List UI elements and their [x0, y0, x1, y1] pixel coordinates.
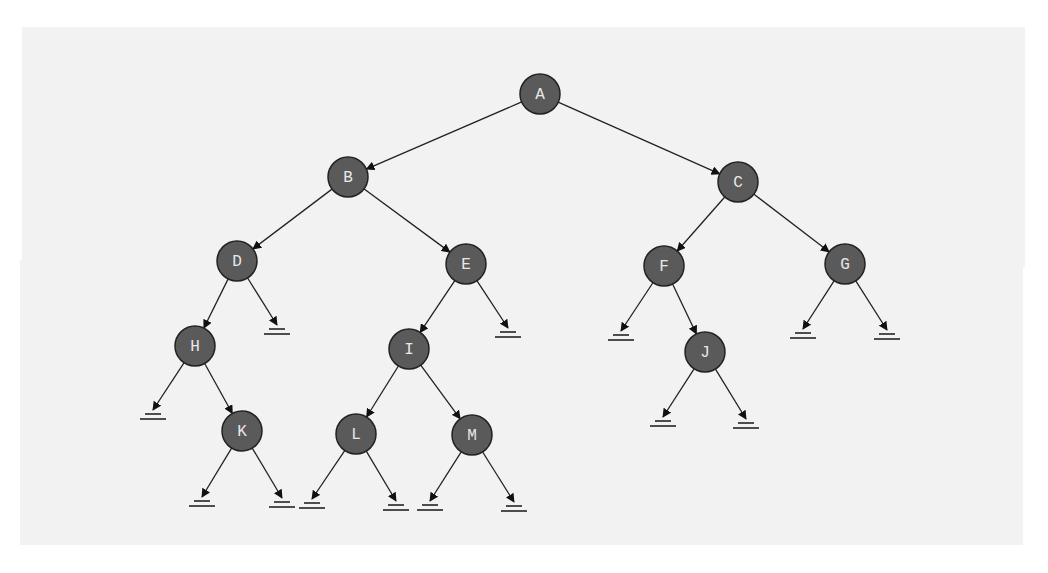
edge-A-B — [366, 101, 523, 169]
null-ground-icon — [501, 506, 527, 511]
null-ground-icon — [189, 501, 215, 506]
node-label: G — [840, 256, 850, 274]
edge-B-E — [362, 188, 449, 252]
null-edge-D — [247, 276, 277, 325]
null-ground-icon — [269, 502, 295, 507]
node-label: F — [659, 258, 669, 276]
edge-H-K — [204, 362, 233, 414]
null-edge-G — [803, 279, 835, 329]
tree-node-g: G — [825, 244, 865, 284]
node-label: I — [404, 341, 414, 359]
null-ground-icon — [650, 421, 676, 426]
null-edge-L — [365, 449, 396, 501]
edge-F-J — [672, 282, 697, 334]
node-label: K — [237, 423, 247, 441]
node-label: D — [232, 253, 242, 271]
tree-node-b: B — [328, 157, 368, 197]
null-edge-L — [312, 449, 346, 499]
null-edge-M — [482, 450, 514, 502]
tree-node-i: I — [389, 329, 429, 369]
null-ground-icon — [417, 505, 443, 510]
tree-node-l: L — [336, 414, 376, 454]
null-edge-K — [202, 446, 233, 497]
tree-node-f: F — [644, 246, 684, 286]
null-ground-icon — [608, 335, 634, 340]
node-label: M — [467, 427, 477, 445]
tree-node-h: H — [175, 326, 215, 366]
edge-C-G — [752, 193, 829, 252]
node-label: E — [461, 256, 471, 274]
null-ground-icon — [299, 503, 325, 508]
null-edge-F — [621, 281, 654, 331]
node-label: H — [190, 338, 200, 356]
null-edge-J — [663, 367, 695, 417]
edge-E-I — [420, 279, 456, 332]
tree-node-d: D — [217, 241, 257, 281]
edges-layer — [153, 101, 887, 502]
null-ground-icon — [264, 329, 290, 334]
null-ground-icon — [874, 334, 900, 339]
edge-I-L — [367, 364, 400, 417]
null-edge-M — [430, 450, 462, 501]
null-ground-icon — [140, 414, 166, 419]
node-label: A — [535, 86, 545, 104]
null-edge-K — [251, 446, 282, 498]
tree-node-j: J — [685, 332, 725, 372]
tree-node-c: C — [718, 162, 758, 202]
edge-I-M — [420, 364, 461, 419]
node-label: J — [700, 344, 710, 362]
null-edge-H — [153, 361, 185, 410]
nodes-layer: ABCDEFGHIJKLM — [175, 74, 865, 455]
null-ground-icon — [790, 333, 816, 338]
binary-tree-diagram: ABCDEFGHIJKLM — [0, 0, 1048, 573]
null-edge-G — [855, 279, 887, 330]
tree-node-a: A — [520, 74, 560, 114]
edge-C-F — [677, 196, 726, 251]
tree-node-m: M — [452, 415, 492, 455]
edge-D-H — [204, 277, 229, 328]
tree-node-e: E — [446, 244, 486, 284]
node-label: C — [733, 174, 743, 192]
null-edge-J — [714, 367, 746, 419]
edge-B-D — [253, 188, 334, 249]
edge-A-C — [556, 101, 719, 174]
node-label: L — [351, 426, 361, 444]
null-ground-icon — [383, 505, 409, 510]
null-ground-icon — [733, 423, 759, 428]
node-label: B — [343, 169, 353, 187]
tree-node-k: K — [222, 411, 262, 451]
null-edge-E — [476, 279, 508, 328]
null-ground-icon — [495, 332, 521, 337]
